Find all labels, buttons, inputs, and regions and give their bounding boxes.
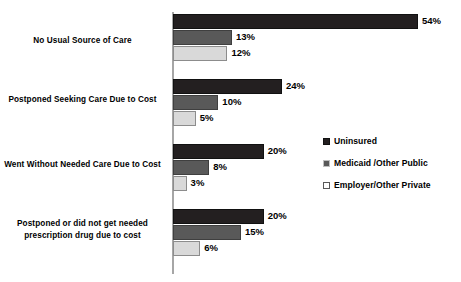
legend-swatch-icon — [323, 160, 330, 167]
bar-uninsured — [173, 14, 418, 29]
legend-swatch-icon — [323, 182, 330, 189]
bar-employer — [173, 111, 196, 126]
bar-medicaid — [173, 160, 209, 175]
bar-value-label: 20% — [268, 210, 287, 221]
legend-item-medicaid: Medicaid /Other Public — [323, 152, 461, 174]
bar-medicaid — [173, 30, 232, 45]
bar-value-label: 13% — [236, 31, 255, 42]
bar-medicaid — [173, 225, 241, 240]
bar-employer — [173, 241, 200, 256]
bar-value-label: 12% — [231, 47, 250, 58]
bar-value-label: 15% — [245, 226, 264, 237]
bar-value-label: 24% — [286, 80, 305, 91]
chart-legend: Uninsured Medicaid /Other Public Employe… — [323, 130, 461, 196]
category-label: Postponed Seeking Care Due to Cost — [0, 94, 165, 106]
legend-label: Uninsured — [334, 136, 377, 146]
chart-root: No Usual Source of Care 54% 13% 12% Post… — [0, 0, 461, 282]
legend-item-employer: Employer/Other Private — [323, 174, 461, 196]
bar-uninsured — [173, 209, 264, 224]
bar-employer — [173, 46, 227, 61]
bar-medicaid — [173, 95, 218, 110]
legend-label: Employer/Other Private — [334, 180, 431, 190]
bar-uninsured — [173, 144, 264, 159]
bar-employer — [173, 176, 187, 191]
legend-swatch-icon — [323, 138, 330, 145]
bar-value-label: 10% — [222, 96, 241, 107]
bar-value-label: 54% — [422, 15, 441, 26]
legend-label: Medicaid /Other Public — [334, 158, 428, 168]
bar-chart-plot: No Usual Source of Care 54% 13% 12% Post… — [0, 0, 461, 282]
bar-value-label: 8% — [213, 161, 227, 172]
bar-value-label: 3% — [191, 177, 205, 188]
bar-uninsured — [173, 79, 282, 94]
bar-value-label: 5% — [200, 112, 214, 123]
bar-value-label: 6% — [204, 242, 218, 253]
category-label: Postponed or did not get needed prescrip… — [0, 218, 165, 241]
category-label: No Usual Source of Care — [0, 35, 165, 47]
category-label: Went Without Needed Care Due to Cost — [0, 159, 165, 171]
bar-value-label: 20% — [268, 145, 287, 156]
legend-item-uninsured: Uninsured — [323, 130, 461, 152]
